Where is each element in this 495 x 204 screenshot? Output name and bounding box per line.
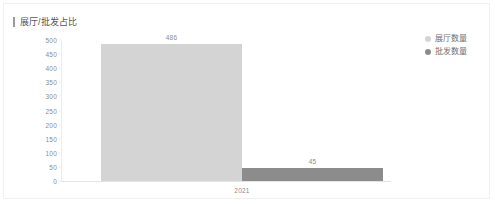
y-axis-tick-mark xyxy=(58,181,61,182)
y-axis-tick-label: 0 xyxy=(53,178,57,185)
y-axis-tick-mark xyxy=(58,82,61,83)
y-axis-tick-mark xyxy=(58,68,61,69)
y-axis-line xyxy=(61,40,62,182)
page-title: 展厅/批发占比 xyxy=(13,15,77,29)
legend-dot-icon xyxy=(425,49,431,55)
legend-label: 批发数量 xyxy=(435,47,467,56)
x-axis-line xyxy=(61,181,391,182)
y-axis-tick-label: 200 xyxy=(46,121,57,128)
bar-value-label: 486 xyxy=(166,34,177,41)
chart-legend: 展厅数量 批发数量 xyxy=(425,34,467,56)
y-axis-tick-mark xyxy=(58,166,61,167)
y-axis-tick-label: 450 xyxy=(46,51,57,58)
y-axis-tick-label: 300 xyxy=(46,93,57,100)
y-axis-tick-label: 400 xyxy=(46,65,57,72)
legend-dot-icon xyxy=(425,36,431,42)
legend-item-showroom[interactable]: 展厅数量 xyxy=(425,34,467,43)
y-axis-tick-label: 500 xyxy=(46,37,57,44)
y-axis-tick-label: 150 xyxy=(46,135,57,142)
y-axis-tick-mark xyxy=(58,96,61,97)
y-axis-tick-mark xyxy=(58,124,61,125)
y-axis-tick-label: 250 xyxy=(46,107,57,114)
y-axis-tick-mark xyxy=(58,138,61,139)
title-accent-bar xyxy=(13,17,15,27)
y-axis-tick-label: 350 xyxy=(46,79,57,86)
y-axis-tick-mark xyxy=(58,152,61,153)
plot-area: 500450400350300250200150100500 48645 202… xyxy=(61,40,391,182)
bar-value-label: 45 xyxy=(309,158,317,165)
y-axis-tick-label: 100 xyxy=(46,149,57,156)
y-axis-tick-mark xyxy=(58,54,61,55)
chart-title-text: 展厅/批发占比 xyxy=(20,17,77,28)
y-axis-tick-mark xyxy=(58,110,61,111)
y-axis-tick-label: 50 xyxy=(49,163,57,170)
bar-wholesale[interactable]: 45 xyxy=(242,168,383,181)
x-axis-category-label: 2021 xyxy=(234,187,249,194)
chart-card: 展厅/批发占比 展厅数量 批发数量 5004504003503002502001… xyxy=(3,3,490,199)
legend-item-wholesale[interactable]: 批发数量 xyxy=(425,47,467,56)
y-axis-tick-mark xyxy=(58,40,61,41)
legend-label: 展厅数量 xyxy=(435,34,467,43)
bar-showroom[interactable]: 486 xyxy=(101,44,242,181)
